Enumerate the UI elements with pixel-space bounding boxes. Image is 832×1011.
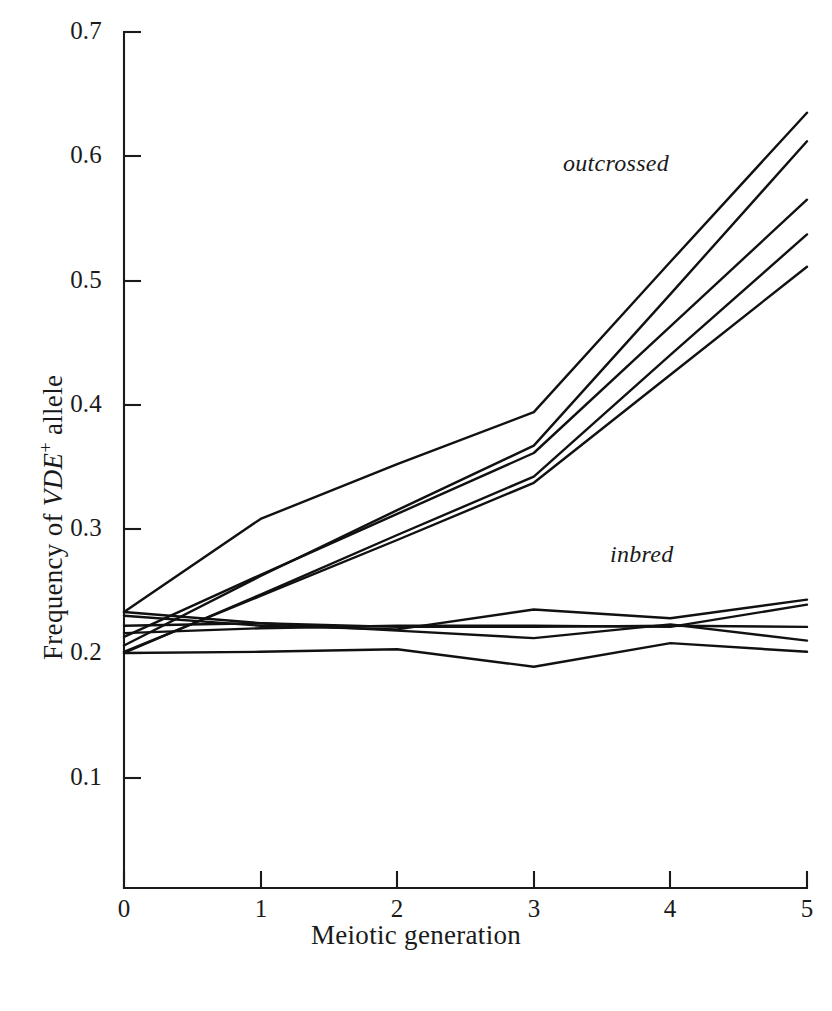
series-line-outcrossed-2 xyxy=(124,141,807,645)
y-tick-label-0.6: 0.6 xyxy=(22,141,102,169)
x-tick-label-4: 4 xyxy=(647,895,693,923)
y-tick-label-0.1: 0.1 xyxy=(22,763,102,791)
x-tick-label-5: 5 xyxy=(784,895,830,923)
y-axis-title-superscript: + xyxy=(36,442,56,453)
y-axis-title-prefix: Frequency of xyxy=(38,506,68,660)
y-axis-title-suffix: allele xyxy=(38,375,68,442)
annotation-inbred: inbred xyxy=(610,541,674,568)
y-axis-title: Frequency of VDE+ allele xyxy=(36,375,69,660)
x-axis-ticks xyxy=(124,871,807,888)
data-series-layer xyxy=(124,113,807,667)
y-axis-title-gene: VDE xyxy=(38,453,68,506)
annotation-outcrossed: outcrossed xyxy=(563,150,669,177)
x-tick-label-3: 3 xyxy=(511,895,557,923)
x-tick-label-0: 0 xyxy=(101,895,147,923)
y-tick-label-0.7: 0.7 xyxy=(22,17,102,45)
chart-plot-area xyxy=(0,0,832,1011)
y-tick-label-0.5: 0.5 xyxy=(22,266,102,294)
series-line-outcrossed-1 xyxy=(124,113,807,612)
y-axis-ticks xyxy=(124,32,141,778)
x-axis-title: Meiotic generation xyxy=(0,920,832,951)
series-line-outcrossed-3 xyxy=(124,200,807,637)
figure-container: 0.7 0.6 0.5 0.4 0.3 0.2 0.1 0 1 2 3 4 5 … xyxy=(0,0,832,1011)
x-tick-label-2: 2 xyxy=(374,895,420,923)
axes-group xyxy=(124,32,807,888)
x-tick-label-1: 1 xyxy=(238,895,284,923)
series-line-inbred-5 xyxy=(124,643,807,667)
